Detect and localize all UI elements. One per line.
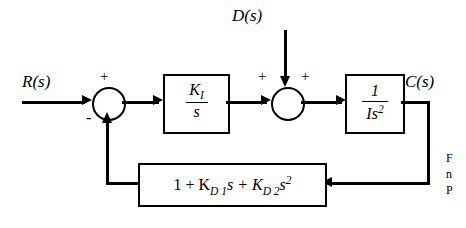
feedback-block: 1 + KD 1s + KD 2s2 <box>138 163 327 207</box>
disturbance-summer-plus-right: + <box>301 68 309 85</box>
feedback-block-label: 1 + KD 1s + KD 2s2 <box>140 174 325 197</box>
block-diagram-figure: R(s) D(s) C(s) + - KI s + + 1 Is2 <box>0 0 466 228</box>
output-signal-label: C(s) <box>405 72 434 92</box>
feedback-arrowhead <box>102 112 112 123</box>
feedback-riser-line <box>106 123 109 185</box>
margin-text-line-3: P <box>446 182 464 198</box>
error-summer-plus-sign: + <box>100 68 108 85</box>
controller-output-arrowhead <box>261 95 271 105</box>
plant-denominator: Is2 <box>347 103 403 123</box>
reference-input-line <box>22 101 85 104</box>
error-signal-arrowhead <box>153 95 163 105</box>
error-summer-minus-sign: - <box>86 108 92 128</box>
disturbance-summer <box>271 87 305 121</box>
reference-arrowhead <box>82 95 92 105</box>
disturbance-input-label: D(s) <box>232 6 262 26</box>
integral-controller-denominator: s <box>165 104 228 121</box>
disturbance-input-line <box>284 30 287 78</box>
feedback-takeoff-line <box>427 101 430 185</box>
output-line <box>401 101 430 104</box>
margin-text-line-2: n <box>446 166 464 182</box>
reference-input-label: R(s) <box>22 72 50 92</box>
disturbance-arrowhead <box>280 76 290 87</box>
feedback-return-line-right <box>322 182 430 185</box>
plant-block: 1 Is2 <box>345 74 405 134</box>
plant-numerator: 1 <box>347 83 403 100</box>
feedback-return-line-left <box>106 182 139 185</box>
integral-controller-numerator: KI <box>165 82 228 101</box>
plant-fraction-bar <box>362 101 388 102</box>
margin-text: F n P <box>446 150 464 198</box>
disturbance-summer-plus-left: + <box>258 68 266 85</box>
integral-controller-block: KI s <box>163 74 230 134</box>
margin-text-line-1: F <box>446 150 464 166</box>
